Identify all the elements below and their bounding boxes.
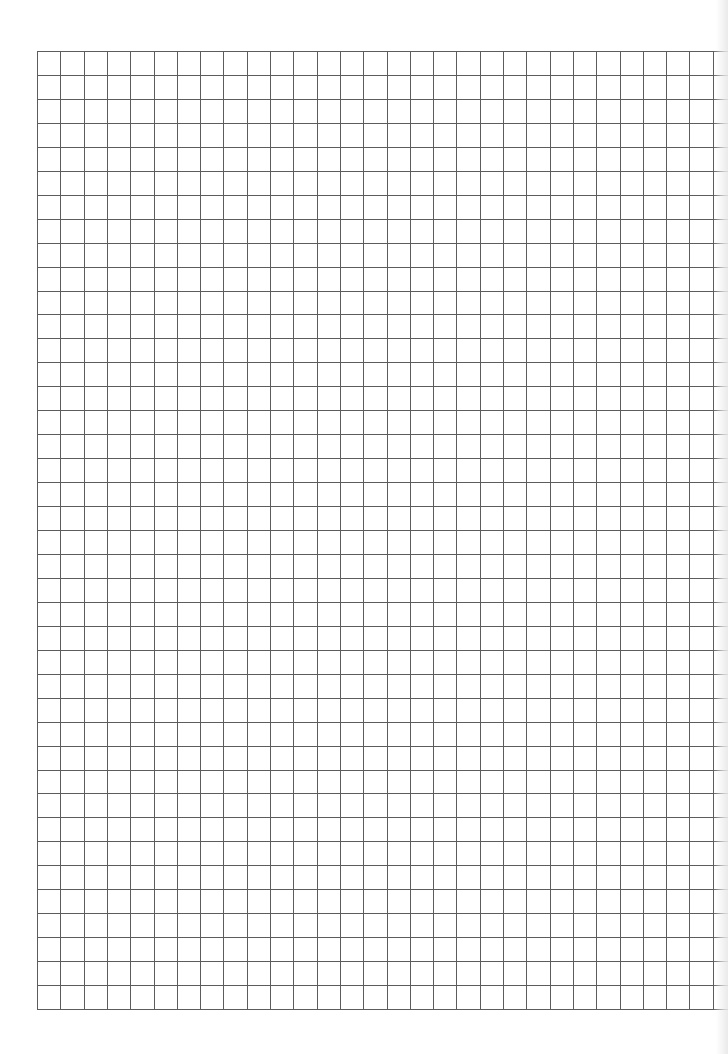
grid-horizontal-line [37,602,714,603]
grid-horizontal-line [37,458,714,459]
grid-horizontal-line [37,746,714,747]
grid-horizontal-line [37,937,714,938]
grid-horizontal-line [37,626,714,627]
grid-horizontal-line [37,865,714,866]
grid-horizontal-line [37,291,714,292]
grid-horizontal-line [37,1009,714,1010]
grid-horizontal-line [37,362,714,363]
grid-horizontal-line [37,267,714,268]
grid-horizontal-line [37,482,714,483]
graph-paper-sheet [0,0,728,1054]
grid-horizontal-line [37,410,714,411]
grid-horizontal-line [37,243,714,244]
grid-horizontal-line [37,554,714,555]
grid-horizontal-line [37,195,714,196]
grid-horizontal-line [37,147,714,148]
grid-horizontal-line [37,338,714,339]
grid-horizontal-line [37,75,714,76]
grid-horizontal-line [37,698,714,699]
grid-horizontal-line [37,434,714,435]
grid-horizontal-line [37,506,714,507]
grid-horizontal-line [37,314,714,315]
page-edge-shadow [716,0,728,1054]
grid-horizontal-line [37,913,714,914]
grid-horizontal-line [37,841,714,842]
grid-horizontal-line [37,386,714,387]
grid-horizontal-line [37,961,714,962]
grid-horizontal-line [37,578,714,579]
grid-horizontal-line [37,889,714,890]
grid-horizontal-line [37,530,714,531]
grid-horizontal-line [37,650,714,651]
grid-horizontal-line [37,793,714,794]
grid-horizontal-line [37,817,714,818]
grid-horizontal-line [37,674,714,675]
grid-horizontal-line [37,99,714,100]
grid-horizontal-line [37,51,714,52]
grid-horizontal-line [37,123,714,124]
grid-horizontal-line [37,770,714,771]
grid-horizontal-line [37,722,714,723]
grid-horizontal-line [37,985,714,986]
square-grid [0,0,728,1054]
grid-horizontal-line [37,171,714,172]
grid-horizontal-line [37,219,714,220]
